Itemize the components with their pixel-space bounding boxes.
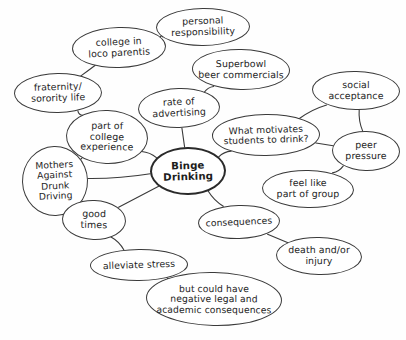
connector-binge-drinking-to-good-times	[119, 186, 159, 207]
connector-good-times-to-alleviate-stress	[111, 237, 124, 250]
node-label: socialacceptance	[316, 80, 396, 101]
node-label: part ofcollegeexperience	[70, 121, 145, 154]
node-label: peerpressure	[336, 140, 396, 161]
node-label: consequences	[202, 215, 276, 229]
connector-social-acceptance-to-peer-pressure	[359, 110, 363, 131]
node-label: BingeDrinking	[155, 159, 222, 184]
connector-what-motivates-to-peer-pressure	[316, 143, 333, 146]
connector-what-motivates-to-social-acceptance	[299, 105, 326, 119]
connector-part-of-college-to-binge-drinking	[142, 152, 157, 158]
node-label: alleviate stress	[94, 258, 184, 271]
connector-peer-pressure-to-feel-like-part-of-group	[333, 166, 344, 173]
connector-what-motivates-to-binge-drinking	[219, 151, 232, 157]
node-label: college inloco parentis	[76, 35, 163, 60]
mind-map-canvas: personalresponsibilitycollege inloco par…	[0, 0, 406, 340]
node-label: MothersAgainstDrunkDriving	[25, 159, 85, 203]
connector-mothers-against-to-binge-drinking	[88, 174, 150, 179]
node-label: feel likepart of group	[266, 178, 350, 199]
node-label: personalresponsibility	[160, 15, 247, 39]
node-label: What motivatesstudents to drink?	[216, 123, 317, 147]
connector-binge-drinking-to-consequences	[208, 191, 223, 206]
node-label: rate ofadvertising	[142, 96, 217, 121]
node-label: Superbowlbeer commercials	[196, 59, 286, 80]
node-label: fraternity/sorority life	[18, 81, 99, 105]
node-label: death and/orinjury	[280, 245, 358, 266]
node-label: but could havenegative legal andacademic…	[150, 283, 278, 314]
node-label: goodtimes	[66, 209, 122, 231]
connector-college-loco-parentis-to-fraternity-sorority	[81, 65, 95, 76]
connector-consequences-to-death-or-injury	[268, 234, 288, 243]
connector-rate-of-advertising-to-binge-drinking	[182, 128, 185, 147]
